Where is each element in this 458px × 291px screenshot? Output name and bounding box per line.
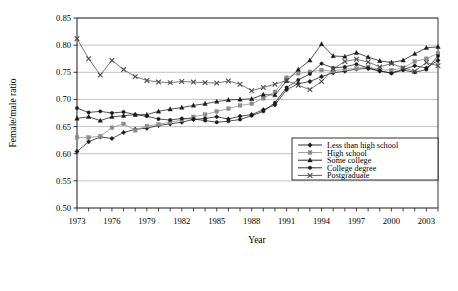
series-2-point-5 — [133, 129, 137, 133]
series-4-point-6 — [145, 115, 148, 118]
series-4-point-15 — [250, 114, 253, 117]
series-2-point-16 — [261, 96, 265, 100]
series-4-point-23 — [343, 65, 346, 68]
series-4-point-16 — [262, 110, 265, 113]
y-tick-label-6: 0.80 — [56, 40, 71, 50]
chart-legend: Less than high schoolHigh schoolSome col… — [292, 138, 438, 180]
series-2-point-2 — [98, 134, 102, 138]
series-4-point-18 — [285, 86, 288, 89]
legend-label-5: Postgraduate — [327, 171, 370, 180]
x-tick-label-3: 1982 — [173, 216, 190, 226]
series-4-point-1 — [87, 111, 90, 114]
series-2-point-0 — [75, 136, 79, 140]
y-tick-label-4: 0.70 — [56, 94, 71, 104]
series-4-point-8 — [168, 118, 171, 121]
series-2-point-14 — [238, 104, 242, 108]
series-4-point-27 — [390, 72, 393, 75]
y-axis-title: Female/male ratio — [8, 78, 18, 147]
legend-marker-2 — [308, 151, 312, 155]
series-2-point-7 — [157, 123, 161, 127]
series-4-point-4 — [122, 110, 125, 113]
x-tick-label-10: 2003 — [418, 216, 435, 226]
series-2-point-1 — [87, 136, 91, 140]
x-tick-label-2: 1979 — [138, 216, 155, 226]
chart-container: 0.500.550.600.650.700.750.800.85 1973197… — [0, 0, 458, 291]
y-tick-label-2: 0.60 — [56, 149, 71, 159]
x-tick-label-9: 2000 — [383, 216, 400, 226]
x-axis-ticks: 1973197619791982198519881991199419972000… — [68, 208, 438, 226]
y-tick-label-1: 0.55 — [56, 176, 71, 186]
series-4-point-24 — [355, 62, 358, 65]
y-axis-ticks: 0.500.550.600.650.700.750.800.85 — [56, 13, 77, 213]
series-4-point-26 — [378, 69, 381, 72]
x-tick-label-4: 1985 — [208, 216, 225, 226]
series-2-point-4 — [122, 122, 126, 126]
series-4-point-13 — [227, 119, 230, 122]
series-2-point-13 — [227, 107, 231, 111]
series-4-point-17 — [273, 101, 276, 104]
series-4-point-21 — [320, 62, 323, 65]
series-4-point-5 — [134, 113, 137, 116]
series-4-point-12 — [215, 121, 218, 124]
series-4-point-11 — [203, 119, 206, 122]
x-tick-label-7: 1994 — [313, 216, 331, 226]
series-2-point-21 — [320, 68, 324, 72]
series-4-point-14 — [238, 118, 241, 121]
series-4-point-10 — [192, 117, 195, 120]
series-2-point-30 — [425, 57, 429, 61]
line-chart: 0.500.550.600.650.700.750.800.85 1973197… — [0, 0, 458, 291]
y-tick-label-3: 0.65 — [56, 122, 71, 132]
series-2-point-11 — [203, 113, 207, 117]
series-2-point-27 — [390, 68, 394, 72]
series-2-point-12 — [215, 110, 219, 114]
series-4-point-25 — [366, 66, 369, 69]
y-tick-label-0: 0.50 — [56, 203, 71, 213]
series-4-point-3 — [110, 111, 113, 114]
series-4-point-9 — [180, 117, 183, 120]
x-tick-label-6: 1991 — [278, 216, 295, 226]
x-tick-label-5: 1988 — [243, 216, 260, 226]
series-2-point-24 — [355, 67, 359, 71]
x-tick-label-8: 1997 — [348, 216, 366, 226]
x-tick-label-1: 1976 — [103, 216, 121, 226]
series-4-point-31 — [436, 54, 439, 57]
series-2-point-29 — [413, 60, 417, 64]
series-2-point-19 — [296, 72, 300, 76]
series-2-point-3 — [110, 126, 114, 130]
series-2-point-6 — [145, 124, 149, 128]
y-tick-label-7: 0.85 — [56, 13, 71, 23]
x-tick-label-0: 1973 — [68, 216, 85, 226]
series-4-point-20 — [308, 72, 311, 75]
legend-marker-4 — [308, 166, 311, 169]
series-2-point-15 — [250, 102, 254, 106]
y-tick-label-5: 0.75 — [56, 67, 71, 77]
series-4-point-2 — [99, 110, 102, 113]
series-4-point-19 — [297, 78, 300, 81]
series-4-point-7 — [157, 117, 160, 120]
x-axis-title: Year — [248, 235, 266, 245]
series-4-point-30 — [425, 68, 428, 71]
series-4-point-0 — [75, 106, 78, 109]
